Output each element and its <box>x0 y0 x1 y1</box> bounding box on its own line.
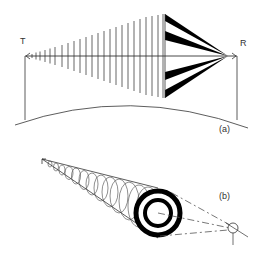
earth-arc <box>15 106 248 128</box>
observer-eye-icon <box>228 223 238 233</box>
label-R: R <box>240 38 247 48</box>
panel-a-label: (a) <box>219 124 230 134</box>
panel-a: T R (a) <box>15 14 248 134</box>
label-T: T <box>20 36 26 46</box>
figure-canvas: T R (a) <box>0 0 267 260</box>
panel-b-label: (b) <box>219 191 230 201</box>
panel-b: (b) <box>42 159 248 245</box>
